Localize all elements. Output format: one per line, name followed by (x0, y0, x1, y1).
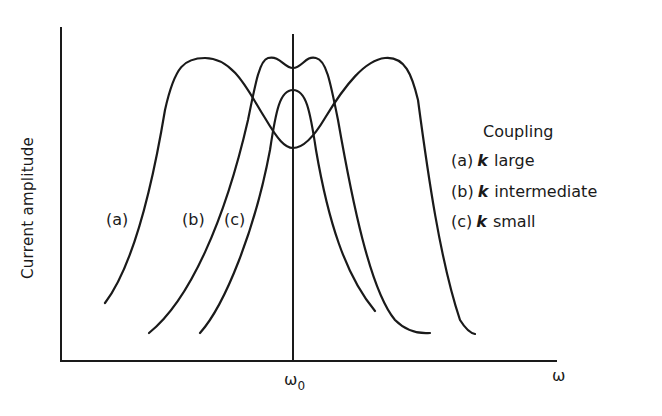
omega0-subscript: 0 (297, 379, 305, 393)
legend-k-a: k (477, 151, 488, 170)
curve-label-a: (a) (106, 212, 128, 228)
curve-label-c: (c) (224, 212, 245, 228)
legend-item-a: (a)klarge (451, 151, 534, 170)
omega0-tick-label: ω0 (284, 372, 305, 388)
legend-k-b: k (478, 182, 489, 201)
curve-b (149, 58, 430, 334)
legend-text-c: small (493, 212, 536, 231)
y-axis-label: Current amplitude (19, 137, 37, 279)
legend-tag-c: (c) (451, 212, 472, 231)
omega0-symbol: ω (284, 370, 297, 389)
legend-text-b: intermediate (494, 182, 597, 201)
curve-label-b: (b) (182, 212, 205, 228)
legend-item-b: (b)kintermediate (451, 182, 597, 201)
legend-text-a: large (494, 151, 535, 170)
legend-tag-a: (a) (451, 151, 473, 170)
legend-title: Coupling (483, 122, 553, 141)
legend-tag-b: (b) (451, 182, 474, 201)
legend-k-c: k (476, 212, 487, 231)
resonance-plot (0, 0, 662, 416)
legend-item-c: (c)ksmall (451, 212, 536, 231)
x-axis-label: ω (552, 368, 565, 384)
curve-a (105, 58, 475, 334)
